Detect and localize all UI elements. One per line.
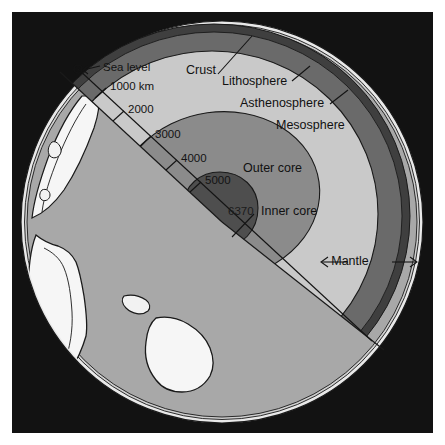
depth-label-4000: 4000 (181, 152, 207, 164)
island-small-lower (40, 189, 50, 200)
label-asthenosphere: Asthenosphere (240, 96, 324, 110)
label-lithosphere: Lithosphere (222, 74, 287, 88)
label-mantle: Mantle (331, 254, 369, 268)
label-outer-core: Outer core (243, 161, 302, 175)
depth-label-2000: 2000 (128, 103, 154, 115)
label-crust: Crust (186, 63, 216, 77)
label-mesosphere: Mesosphere (276, 118, 345, 132)
depth-label-3000: 3000 (155, 128, 181, 140)
earth-cutaway-figure: Sea level 1000 km 2000 3000 4000 5000 63… (0, 0, 445, 445)
label-inner-core: Inner core (261, 204, 317, 218)
depth-label-6370: 6370 (228, 205, 254, 217)
depth-label-5000: 5000 (205, 174, 231, 186)
depth-label-sea-level: Sea level (103, 61, 150, 73)
depth-label-1000: 1000 km (110, 80, 154, 92)
